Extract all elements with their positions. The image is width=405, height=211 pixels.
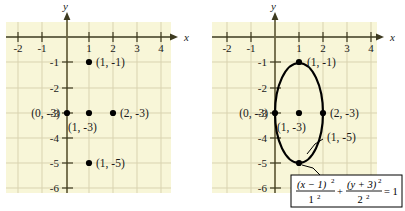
point-label-0-neg3: (0, -3) [31, 107, 60, 120]
equation-equals-one: = 1 [384, 186, 398, 197]
x-tick-label: -2 [222, 42, 231, 54]
x-tick-label: 1 [86, 42, 92, 54]
equation-plus-sign: + [337, 186, 343, 197]
point-label-1-neg3: (1, -3) [277, 121, 306, 134]
y-tick-label: -5 [258, 157, 268, 169]
data-point-0-neg3 [64, 110, 70, 116]
x-tick-label: 4 [158, 42, 164, 54]
left-panel: -2 -1 1 2 3 4 -1 -2 -3 -4 -5 -6 x y [0, 0, 203, 211]
x-tick-label: 3 [134, 42, 140, 54]
equation-numerator-2: (y + 3) [347, 179, 377, 191]
y-axis-label: y [270, 0, 276, 12]
y-axis-label: y [62, 0, 68, 12]
y-tick-label: -6 [50, 182, 60, 194]
right-graph-svg: -2 -1 1 2 3 4 -1 -2 -3 -4 -5 -6 x y [203, 0, 405, 211]
point-label-2-neg3: (2, -3) [120, 107, 149, 120]
x-tick-label: 2 [110, 42, 116, 54]
y-tick-label: -1 [258, 56, 267, 68]
data-point-1-neg1 [86, 59, 92, 65]
x-axis-arrow [376, 34, 384, 41]
data-point-1-neg3 [296, 110, 302, 116]
figure-container: -2 -1 1 2 3 4 -1 -2 -3 -4 -5 -6 x y [0, 0, 405, 211]
equation-denominator-1: 1 [308, 194, 313, 205]
y-axis-arrow [272, 12, 279, 20]
point-label-1-neg5: (1, -5) [96, 157, 125, 170]
x-axis-label: x [183, 31, 189, 43]
y-axis-arrow [64, 12, 71, 20]
x-axis-arrow [170, 34, 178, 41]
equation-numerator-2-exponent: 2 [378, 177, 382, 185]
point-label-2-neg3: (2, -3) [330, 107, 359, 120]
point-label-1-neg1: (1, -1) [307, 56, 336, 69]
y-tick-label: -6 [258, 182, 268, 194]
y-tick-label: -2 [258, 82, 267, 94]
x-tick-label: 1 [296, 42, 302, 54]
right-panel: -2 -1 1 2 3 4 -1 -2 -3 -4 -5 -6 x y [203, 0, 405, 211]
point-label-0-neg3: (0, -3) [239, 107, 268, 120]
left-graph-svg: -2 -1 1 2 3 4 -1 -2 -3 -4 -5 -6 x y [0, 0, 203, 211]
data-point-0-neg3 [272, 110, 278, 116]
point-label-1-neg1: (1, -1) [96, 56, 125, 69]
data-point-2-neg3 [320, 110, 326, 116]
equation-denominator-2-exponent: 2 [366, 193, 370, 201]
x-tick-label: 3 [344, 42, 350, 54]
data-point-1-neg3 [86, 110, 92, 116]
y-tick-label: -2 [50, 82, 59, 94]
point-label-1-neg5: (1, -5) [327, 131, 356, 144]
x-axis-label: x [389, 31, 395, 43]
y-tick-label: -5 [50, 157, 60, 169]
equation-numerator-1-exponent: 2 [331, 177, 335, 185]
x-tick-label: 4 [368, 42, 374, 54]
data-point-1-neg5 [296, 160, 302, 166]
y-tick-label: -4 [50, 132, 60, 144]
equation-denominator-2: 2 [357, 194, 362, 205]
x-tick-label: 2 [320, 42, 326, 54]
data-point-1-neg5 [86, 160, 92, 166]
point-label-1-neg3: (1, -3) [68, 121, 97, 134]
x-tick-label: -1 [37, 42, 46, 54]
y-tick-label: -4 [258, 132, 268, 144]
equation-denominator-1-exponent: 2 [317, 193, 321, 201]
data-point-1-neg1 [296, 59, 302, 65]
x-tick-label: -2 [13, 42, 22, 54]
equation-numerator-1: (x − 1) [297, 179, 327, 191]
y-tick-label: -1 [50, 56, 59, 68]
data-point-2-neg3 [110, 110, 116, 116]
equation-box: (x − 1) 2 1 2 + (y + 3) 2 2 2 = 1 [291, 175, 402, 207]
x-tick-label: -1 [246, 42, 255, 54]
